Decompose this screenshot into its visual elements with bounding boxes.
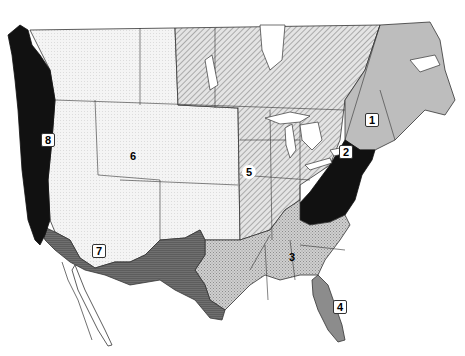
region-label-3: 3	[285, 250, 299, 264]
region-label-6: 6	[126, 149, 140, 163]
baja-california	[72, 265, 112, 346]
region-label-5: 5	[242, 165, 256, 179]
map-svg	[0, 0, 465, 356]
region-label-8: 8	[41, 133, 55, 147]
region-label-4: 4	[333, 300, 347, 314]
region-label-2: 2	[339, 145, 353, 159]
region-label-7: 7	[92, 244, 106, 258]
region-label-1: 1	[365, 113, 379, 127]
region-map: 1 2 3 4 5 6 7 8	[0, 0, 465, 356]
